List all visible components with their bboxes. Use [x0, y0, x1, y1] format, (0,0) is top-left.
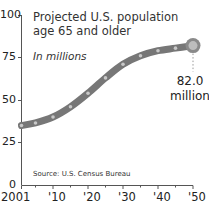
y-tick-25: 25 — [0, 135, 16, 148]
data-point — [34, 121, 38, 125]
endpoint-marker-inner — [189, 41, 198, 50]
data-point — [69, 105, 73, 109]
x-tick-2050: '50 — [188, 190, 206, 204]
data-point — [51, 115, 55, 119]
data-point — [174, 46, 178, 50]
data-point — [121, 63, 125, 67]
y-tick-50: 50 — [0, 93, 16, 106]
y-tick-100: 100 — [0, 8, 16, 21]
x-axis — [22, 186, 194, 190]
x-tick-2010: '10 — [48, 190, 66, 204]
data-point — [86, 91, 90, 95]
end-value-annotation: 82.0 million — [170, 74, 209, 104]
x-tick-2040: '40 — [153, 190, 171, 204]
end-unit: million — [170, 89, 209, 104]
x-tick-2030: '30 — [118, 190, 136, 204]
chart-subtitle: In millions — [33, 50, 87, 62]
x-tick-2001: 2001 — [1, 190, 30, 204]
data-point — [139, 54, 143, 58]
y-tick-75: 75 — [0, 50, 16, 63]
y-axis — [18, 15, 22, 185]
data-point — [104, 76, 108, 80]
data-point — [20, 124, 24, 128]
source-note: Source: U.S. Census Bureau — [33, 170, 130, 178]
end-value: 82.0 — [170, 74, 209, 89]
x-tick-2020: '20 — [83, 190, 101, 204]
chart-title: Projected U.S. population age 65 and old… — [33, 10, 193, 38]
data-point — [156, 49, 160, 53]
